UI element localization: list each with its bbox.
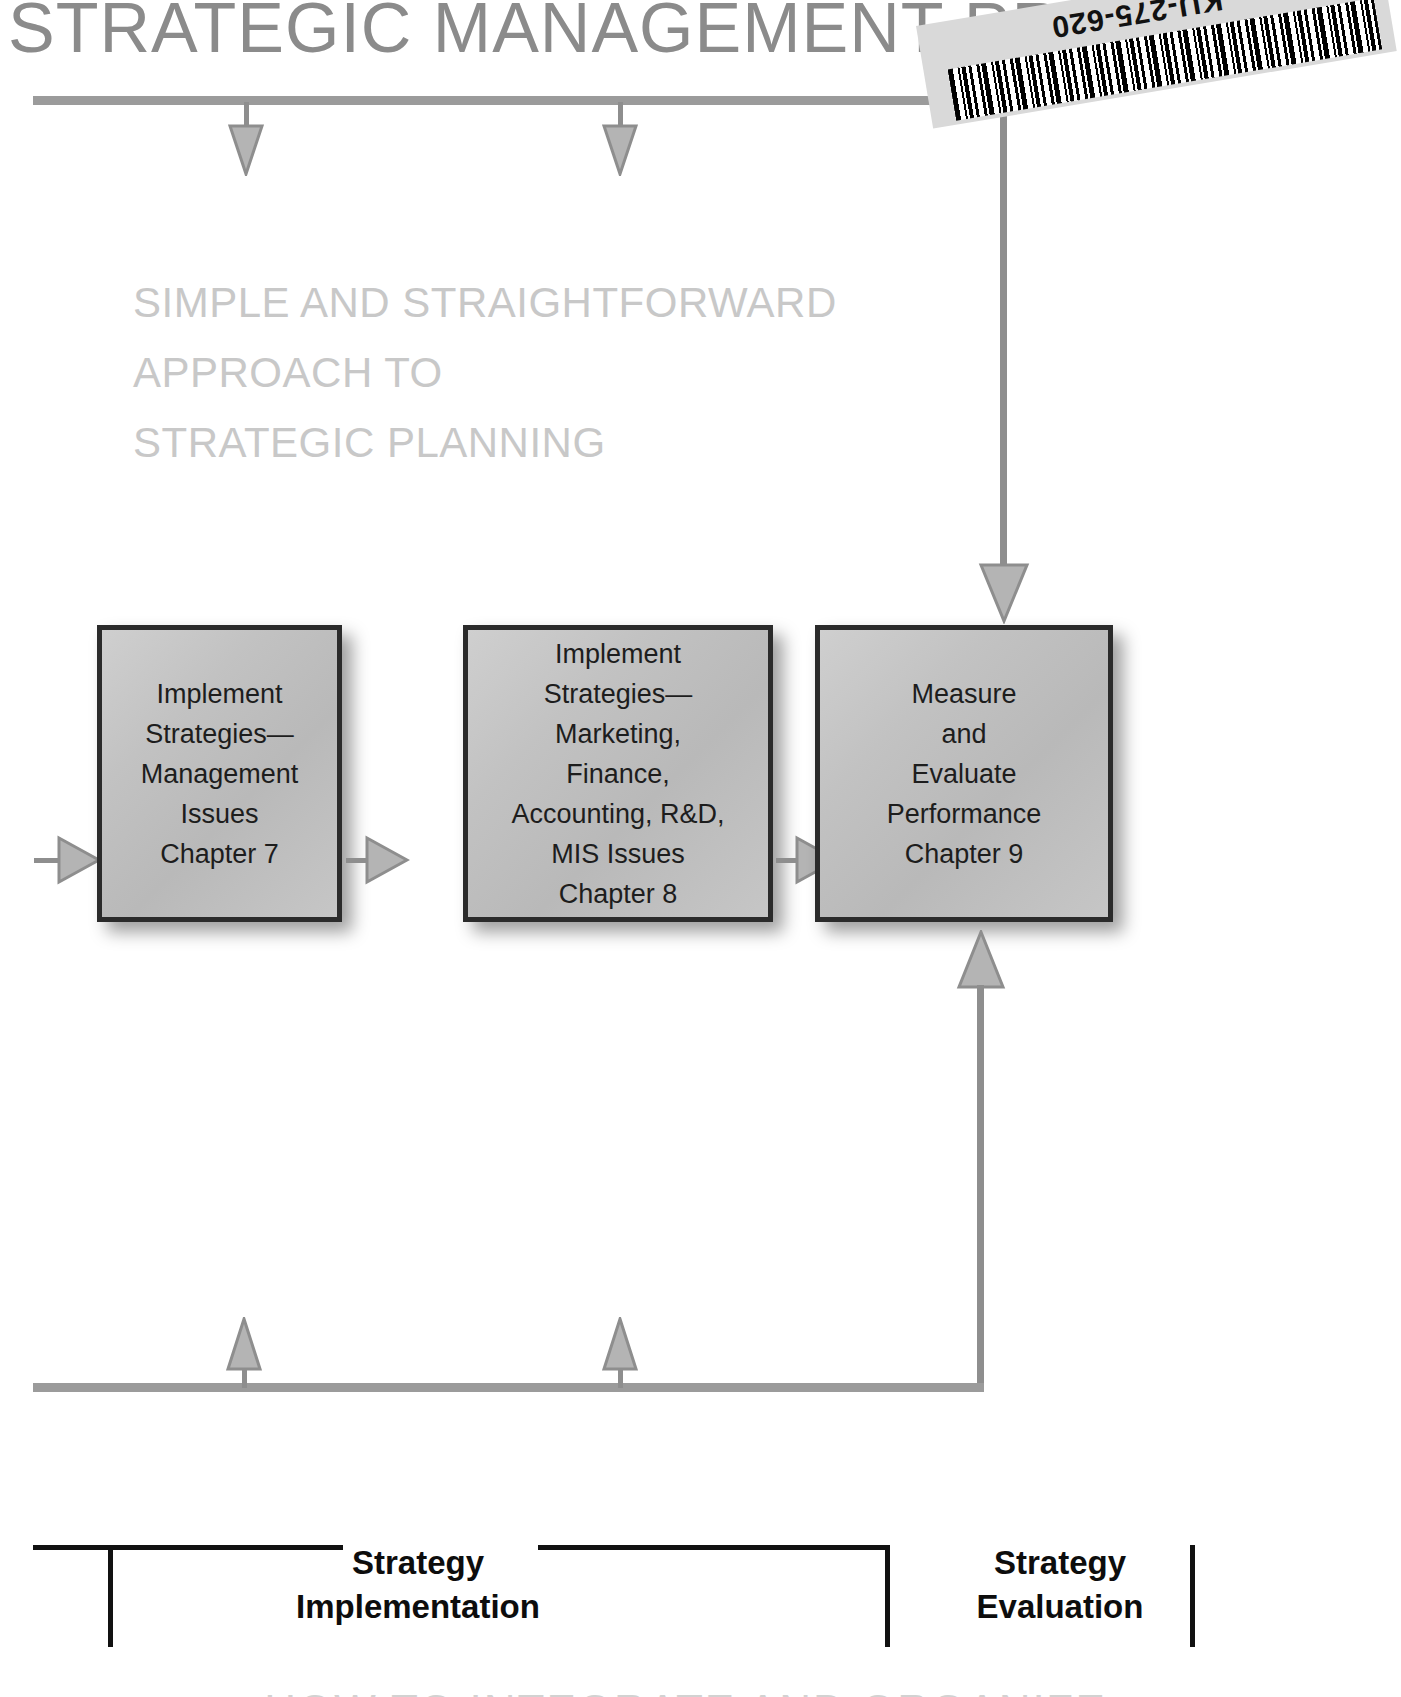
- subtitle-line-3: STRATEGIC PLANNING: [133, 408, 893, 478]
- bottom-arrow-stem-left: [242, 1368, 247, 1388]
- top-horizontal-rule: [33, 96, 1011, 105]
- bracket-label-strategy-implementation: Strategy Implementation: [268, 1541, 568, 1629]
- process-box-2-text: Implement Strategies— Marketing, Finance…: [468, 634, 768, 914]
- bottom-arrow-stem-middle: [618, 1368, 623, 1388]
- subtitle-line-1: SIMPLE AND STRAIGHTFORWARD: [133, 268, 893, 338]
- up-arrow-into-measure-box-icon: [956, 930, 1006, 990]
- feedback-down-stem: [1000, 100, 1007, 568]
- feedback-up-stem: [977, 985, 984, 1385]
- bracket-line-left-b: [538, 1545, 888, 1550]
- bracket-tick-right: [1190, 1545, 1195, 1647]
- process-box-measure-evaluate-performance[interactable]: Measure and Evaluate Performance Chapter…: [815, 625, 1113, 922]
- process-box-1-text: Implement Strategies— Management Issues …: [102, 674, 337, 874]
- subtitle-block: SIMPLE AND STRAIGHTFORWARD APPROACH TO S…: [133, 268, 893, 478]
- up-arrow-bottom-middle-icon: [602, 1317, 638, 1371]
- process-box-3-text: Measure and Evaluate Performance Chapter…: [820, 674, 1108, 874]
- bracket-tick-left: [108, 1545, 113, 1647]
- process-box-implement-strategies-functional[interactable]: Implement Strategies— Marketing, Finance…: [463, 625, 773, 922]
- right-arrow-into-box-1-icon: [56, 834, 102, 886]
- bottom-caption: HOW TO INTEGRATE AND ORGANIZE: [0, 1686, 1371, 1697]
- bracket-label-strategy-evaluation: Strategy Evaluation: [920, 1541, 1200, 1629]
- barcode-sticker: KU-275-620: [916, 0, 1397, 133]
- bracket-tick-middle: [885, 1545, 890, 1647]
- up-arrow-bottom-left-icon: [226, 1317, 262, 1371]
- down-arrow-top-middle-icon: [602, 124, 638, 176]
- down-arrow-into-measure-box-icon: [978, 562, 1030, 624]
- process-box-implement-strategies-management[interactable]: Implement Strategies— Management Issues …: [97, 625, 342, 922]
- down-arrow-top-left-icon: [228, 124, 264, 176]
- bottom-horizontal-rule: [33, 1383, 984, 1392]
- right-arrow-box1-to-box2-icon: [364, 834, 410, 886]
- subtitle-line-2: APPROACH TO: [133, 338, 893, 408]
